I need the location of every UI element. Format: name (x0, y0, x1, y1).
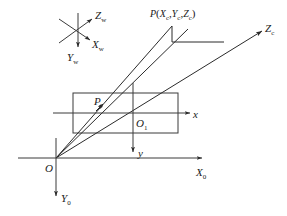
base-axis-y-label: Y0 (61, 192, 71, 207)
image-plane-labels: P O1 x y (93, 95, 198, 159)
world-axis-x-line (59, 19, 90, 40)
world-axis-labels: Zw Xw Yw (67, 9, 107, 66)
world-axis-x-label: Xw (91, 38, 105, 53)
image-axis-x-label: x (192, 108, 198, 120)
projection-geometry-diagram: Zw Xw Yw (0, 0, 287, 216)
scene-point-bracket (172, 26, 224, 42)
camera-axis-z-line (56, 31, 262, 158)
camera-origin-label: O (45, 162, 53, 174)
world-axis-z-label: Zw (95, 9, 107, 24)
world-axis-y-label: Yw (67, 51, 79, 66)
world-coordinate-axes (59, 13, 92, 47)
base-axis-labels: O X0 Y0 (45, 162, 207, 207)
scene-point-label: P(Xc,Yc,Zc) (149, 7, 196, 22)
image-axis-y-label: y (137, 147, 143, 159)
image-origin-label: O1 (136, 117, 148, 132)
ray-origin-to-scene-point (56, 26, 172, 158)
image-point-label: P (93, 95, 101, 107)
diagram-canvas: Zw Xw Yw (0, 0, 287, 216)
base-axis-x-label: X0 (195, 166, 207, 181)
camera-axis-z-label: Zc (265, 22, 274, 37)
projection-rays (56, 26, 262, 158)
